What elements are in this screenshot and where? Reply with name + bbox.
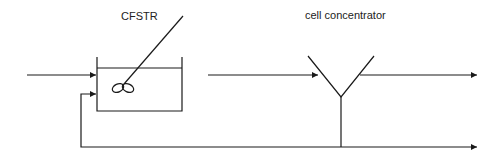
stirrer-shaft [124, 16, 183, 84]
recycle-stream-arrow [81, 94, 341, 147]
process-diagram [0, 0, 495, 159]
cfstr-tank [97, 57, 182, 111]
cell-concentrator-y [308, 56, 374, 97]
cfstr-label: CFSTR [121, 10, 158, 22]
impeller-icon [111, 82, 135, 94]
cell-concentrator-label: cell concentrator [305, 9, 386, 21]
